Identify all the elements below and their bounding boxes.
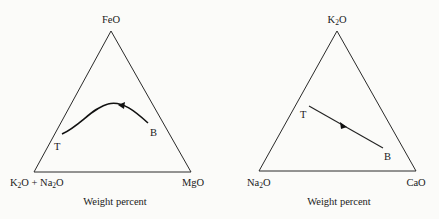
left-bottom-left-label: K2O + Na2O [10,177,64,190]
right-end-label: B [384,151,391,162]
right-bottom-left-label: Na2O [247,177,271,190]
right-ternary-diagram: K2O Na2O CaO Weight percent T B [247,14,426,207]
right-caption: Weight percent [307,196,371,207]
left-ternary-diagram: FeO K2O + Na2O MgO Weight percent T B [10,14,205,207]
ternary-diagrams: FeO K2O + Na2O MgO Weight percent T B K2… [0,0,439,219]
left-end-label: B [150,127,157,138]
left-trend-curve [62,103,148,134]
right-apex-label: K2O [328,14,347,27]
left-arrow-icon [118,102,125,109]
right-triangle [259,31,416,171]
right-bottom-right-label: CaO [406,177,426,188]
left-start-label: T [54,141,61,152]
left-caption: Weight percent [83,196,147,207]
right-start-label: T [300,109,307,120]
right-arrow-icon [340,122,347,129]
left-bottom-right-label: MgO [182,177,205,188]
left-apex-label: FeO [102,14,121,25]
